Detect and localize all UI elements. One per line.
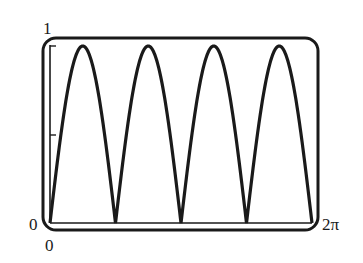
- chart-canvas: [0, 0, 363, 263]
- y-max-label: 1: [43, 20, 52, 37]
- data-curve: [50, 46, 312, 223]
- plot-frame: [43, 38, 318, 230]
- x-min-label: 0: [45, 237, 54, 254]
- x-max-label: 2π: [322, 216, 339, 233]
- y-min-label: 0: [29, 216, 38, 233]
